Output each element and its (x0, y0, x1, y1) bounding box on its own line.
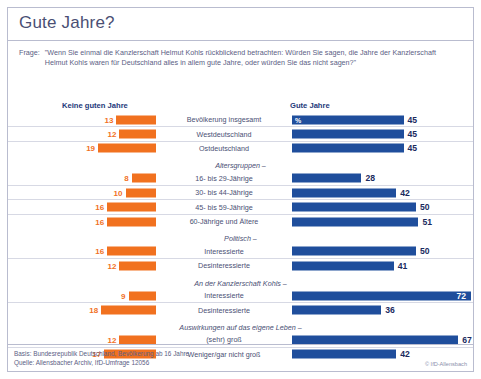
positive-value-label: 42 (400, 349, 410, 359)
group-caption: Auswirkungen auf das eigene Leben – (179, 323, 301, 332)
negative-bar (107, 247, 156, 256)
chart-row: 1660-Jährige und Ältere51 (8, 215, 473, 228)
footer-notes: Basis: Bundesrepublik Deutschland, Bevöl… (14, 349, 189, 367)
positive-bar-zone: 36 (292, 303, 473, 316)
negative-bar-zone: 19 (8, 142, 156, 155)
category-label: 45- bis 59-Jährige (156, 203, 292, 212)
chart-row: 18Desinteressierte36 (8, 303, 473, 316)
category-label: Interessierte (156, 247, 292, 256)
negative-bar-zone: 18 (8, 303, 156, 316)
negative-bar (98, 144, 156, 153)
positive-bar (292, 261, 394, 270)
negative-bar-zone: 16 (8, 215, 156, 228)
chart-row: 816- bis 29-Jährige28 (8, 172, 473, 186)
negative-bar-zone: 10 (8, 186, 156, 199)
group-caption-row: Politisch – (8, 233, 473, 245)
chart-row: 13Bevölkerung insgesamt45% (8, 113, 473, 127)
positive-bar (292, 350, 396, 359)
positive-bar-zone: 42 (292, 186, 473, 199)
copyright-label: © IfD-Allensbach (425, 361, 467, 367)
footer-divider (8, 344, 473, 345)
question-label: Frage: (19, 48, 45, 58)
positive-bar (292, 188, 396, 197)
positive-bar (292, 203, 416, 212)
positive-value-label: 50 (420, 246, 430, 256)
category-label: Desinteressierte (156, 261, 292, 270)
positive-value-label: 28 (365, 173, 375, 183)
negative-bar-zone: 16 (8, 245, 156, 258)
chart-row: 12Desinteressierte41 (8, 259, 473, 272)
positive-value-label: 51 (422, 217, 432, 227)
footer-source: Quelle: Allensbacher Archiv, IfD-Umfrage… (14, 358, 189, 367)
negative-value-label: 13 (104, 115, 113, 124)
chart-row: 1645- bis 59-Jährige50 (8, 200, 473, 214)
negative-value-label: 18 (89, 306, 98, 315)
negative-bar (129, 291, 156, 300)
negative-bar (119, 261, 156, 270)
chart-row: 9Interessierte72 (8, 289, 473, 303)
positive-value-label: 45 (408, 129, 418, 139)
chart-row: 1030- bis 44-Jährige42 (8, 186, 473, 200)
positive-bar (292, 217, 418, 226)
negative-value-label: 10 (114, 188, 123, 197)
percent-symbol: % (295, 116, 301, 123)
column-header-negative: Keine guten Jahre (62, 101, 128, 110)
positive-value-label: 41 (398, 261, 408, 271)
positive-bar-zone: 41 (292, 259, 473, 272)
group-caption: An der Kanzlerschaft Kohls – (194, 279, 287, 288)
group-caption-row: Auswirkungen auf das eigene Leben – (8, 322, 473, 334)
positive-value-label: 45 (408, 143, 418, 153)
negative-value-label: 9 (121, 291, 125, 300)
positive-bar (292, 144, 404, 153)
negative-bar-zone: 8 (8, 172, 156, 185)
negative-bar-zone: 16 (8, 200, 156, 213)
negative-value-label: 16 (95, 217, 104, 226)
group-caption-row: An der Kanzlerschaft Kohls – (8, 278, 473, 290)
positive-value-label: 72 (457, 291, 467, 301)
negative-value-label: 16 (95, 247, 104, 256)
question-block: Frage: "Wenn Sie einmal die Kanzlerschaf… (19, 48, 459, 69)
column-header-positive: Gute Jahre (290, 101, 330, 110)
negative-bar-zone: 12 (8, 259, 156, 272)
positive-bar-zone: 72 (292, 289, 473, 302)
chart-page: Gute Jahre? Frage: "Wenn Sie einmal die … (0, 0, 481, 379)
positive-bar (292, 306, 381, 315)
category-label: Interessierte (156, 291, 292, 300)
negative-bar (101, 306, 156, 315)
group-caption: Politisch – (224, 234, 257, 243)
negative-value-label: 16 (95, 203, 104, 212)
positive-bar-zone: 45 (292, 142, 473, 155)
category-label: Desinteressierte (156, 306, 292, 315)
category-label: 60-Jährige und Ältere (156, 217, 292, 226)
footer-basis: Basis: Bundesrepublik Deutschland, Bevöl… (14, 349, 189, 358)
negative-value-label: 12 (108, 130, 117, 139)
category-label: Bevölkerung insgesamt (156, 115, 292, 124)
positive-bar-zone: 42 (292, 348, 473, 361)
group-caption: Altersgruppen – (215, 161, 266, 170)
positive-bar-zone: 50 (292, 200, 473, 213)
positive-bar-zone: 51 (292, 215, 473, 228)
category-label: Westdeutschland (156, 130, 292, 139)
page-title: Gute Jahre? (19, 13, 115, 33)
category-label: Ostdeutschland (156, 144, 292, 153)
group-caption-row: Altersgruppen – (8, 160, 473, 172)
negative-bar (107, 203, 156, 212)
negative-bar (107, 217, 156, 226)
category-label: 16- bis 29-Jährige (156, 174, 292, 183)
negative-value-label: 19 (86, 144, 95, 153)
negative-value-label: 8 (124, 174, 128, 183)
negative-value-label: 12 (108, 261, 117, 270)
positive-bar (292, 174, 361, 183)
chart-row: 12Westdeutschland45 (8, 127, 473, 141)
positive-value-label: 50 (420, 202, 430, 212)
title-divider (8, 40, 473, 41)
question-text: "Wenn Sie einmal die Kanzlerschaft Helmu… (45, 48, 459, 69)
positive-value-label: 45 (408, 115, 418, 125)
negative-bar (119, 130, 156, 139)
positive-bar (292, 130, 404, 139)
positive-value-label: 36 (385, 305, 395, 315)
positive-bar (292, 291, 471, 300)
positive-bar-zone: 45 (292, 127, 473, 140)
positive-bar-zone: 50 (292, 245, 473, 258)
positive-bar (292, 247, 416, 256)
